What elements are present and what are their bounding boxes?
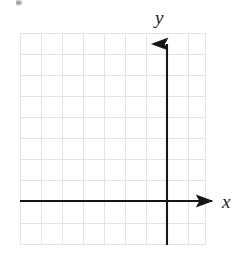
grid-lines-horizontal [20,34,206,245]
plot-svg [0,0,247,258]
coordinate-plane-figure: y x [0,0,247,258]
scan-artifact-smudge [16,0,23,6]
x-axis-label: x [222,192,230,211]
y-axis-label: y [155,8,163,27]
